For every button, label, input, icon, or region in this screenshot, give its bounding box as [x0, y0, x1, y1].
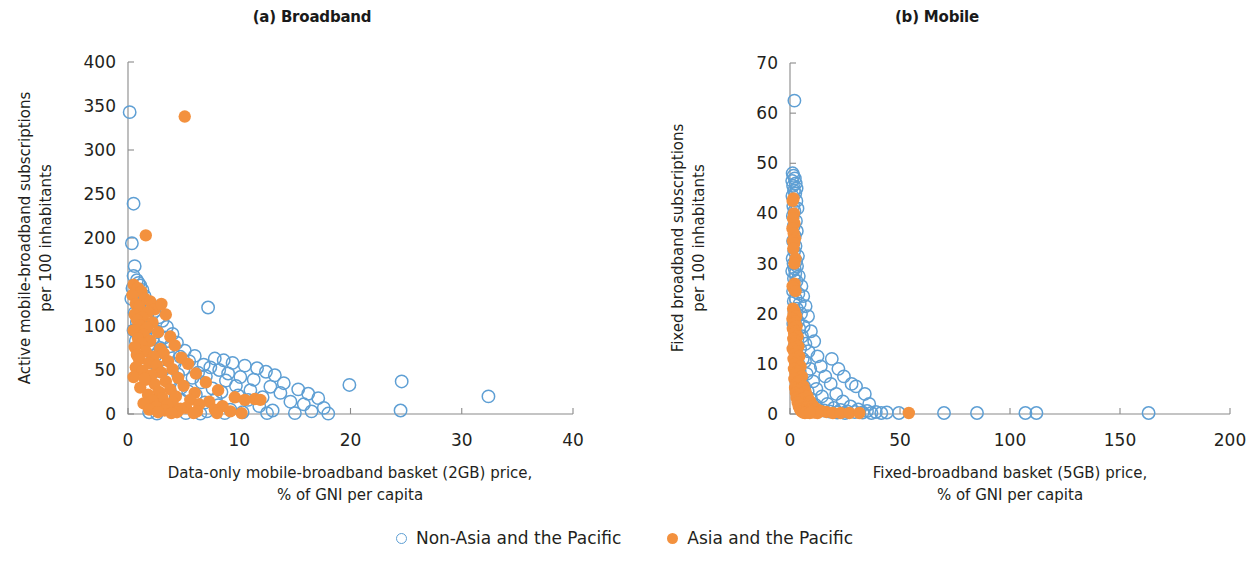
legend-item-non-asia-pacific: Non-Asia and the Pacific: [396, 528, 621, 548]
data-point: [182, 358, 194, 370]
y-tick-label: 200: [84, 228, 116, 248]
data-point: [202, 301, 214, 313]
y-axis-title-line2: per 100 inhabitants: [37, 164, 55, 312]
data-point: [863, 398, 875, 410]
x-axis-title-line2: % of GNI per capita: [937, 486, 1083, 504]
data-point: [788, 257, 800, 269]
y-tick-label: 50: [94, 360, 116, 380]
y-tick-label: 150: [84, 272, 116, 292]
x-tick-label: 20: [340, 430, 362, 450]
data-point: [826, 353, 838, 365]
x-tick-label: 0: [785, 430, 796, 450]
y-tick-label: 20: [756, 304, 778, 324]
data-point: [786, 195, 798, 207]
data-point: [140, 229, 152, 241]
data-point: [1142, 407, 1154, 419]
y-tick-label: 250: [84, 184, 116, 204]
data-point: [305, 405, 317, 417]
y-tick-label: 60: [756, 103, 778, 123]
x-tick-label: 30: [451, 430, 473, 450]
y-axis-title-line1: Fixed broadband subscriptions: [669, 123, 687, 352]
data-point: [235, 407, 247, 419]
data-point: [169, 339, 181, 351]
y-tick-label: 50: [756, 153, 778, 173]
x-tick-label: 100: [994, 430, 1026, 450]
x-axis-title-line1: Fixed-broadband basket (5GB) price,: [873, 464, 1148, 482]
data-point: [123, 106, 135, 118]
scatter-plot-mobile: 010203040506070050100150200Fixed broadba…: [625, 0, 1249, 520]
series-non-asia-pacific: [786, 94, 1155, 419]
data-point: [127, 197, 139, 209]
open-circle-icon: [396, 533, 407, 544]
data-point: [165, 407, 177, 419]
data-point: [177, 380, 189, 392]
y-tick-label: 0: [105, 404, 116, 424]
legend-item-asia-pacific: Asia and the Pacific: [667, 528, 853, 548]
data-point: [127, 371, 139, 383]
data-point: [217, 354, 229, 366]
data-point: [200, 376, 212, 388]
y-tick-label: 400: [84, 52, 116, 72]
data-point: [343, 379, 355, 391]
data-point: [394, 404, 406, 416]
data-point: [254, 394, 266, 406]
data-point: [152, 406, 164, 418]
data-point: [289, 407, 301, 419]
x-axis-title-line1: Data-only mobile-broadband basket (2GB) …: [168, 464, 533, 482]
data-point: [284, 395, 296, 407]
data-point: [804, 407, 816, 419]
figure-legend: Non-Asia and the Pacific Asia and the Pa…: [0, 528, 1249, 548]
scatter-plot-broadband: 050100150200250300350400010203040Active …: [0, 0, 624, 520]
legend-label-non-asia-pacific: Non-Asia and the Pacific: [416, 528, 621, 548]
data-point: [903, 407, 915, 419]
y-tick-label: 300: [84, 140, 116, 160]
data-point: [845, 378, 857, 390]
data-point: [830, 388, 842, 400]
y-tick-label: 10: [756, 354, 778, 374]
y-axis-title-line1: Active mobile-broadband subscriptions: [16, 92, 34, 385]
x-tick-label: 0: [123, 430, 134, 450]
y-tick-label: 0: [767, 404, 778, 424]
data-point: [212, 384, 224, 396]
data-point: [187, 407, 199, 419]
x-tick-label: 200: [1214, 430, 1246, 450]
x-axis-title-line2: % of GNI per capita: [277, 486, 423, 504]
data-point: [138, 373, 150, 385]
x-tick-label: 150: [1104, 430, 1136, 450]
figure-root: (a) Broadband 05010015020025030035040001…: [0, 0, 1249, 576]
chart-panel-mobile: (b) Mobile 010203040506070050100150200Fi…: [625, 0, 1249, 520]
data-point: [789, 285, 801, 297]
data-point: [190, 367, 202, 379]
data-point: [853, 407, 865, 419]
data-point: [155, 298, 167, 310]
panel-b-plot: 010203040506070050100150200Fixed broadba…: [625, 0, 1249, 520]
filled-circle-icon: [667, 533, 678, 544]
data-point: [971, 407, 983, 419]
data-point: [938, 407, 950, 419]
data-point: [211, 407, 223, 419]
data-point: [179, 110, 191, 122]
legend-label-asia-pacific: Asia and the Pacific: [687, 528, 853, 548]
data-point: [239, 359, 251, 371]
y-tick-label: 350: [84, 96, 116, 116]
data-point: [224, 405, 236, 417]
y-tick-label: 70: [756, 53, 778, 73]
data-point: [160, 308, 172, 320]
y-axis-title-line2: per 100 inhabitants: [690, 164, 708, 312]
data-point: [482, 390, 494, 402]
y-tick-label: 40: [756, 203, 778, 223]
y-tick-label: 100: [84, 316, 116, 336]
data-point: [395, 375, 407, 387]
x-tick-label: 50: [889, 430, 911, 450]
data-point: [239, 394, 251, 406]
x-tick-label: 40: [562, 430, 584, 450]
chart-panel-broadband: (a) Broadband 05010015020025030035040001…: [0, 0, 624, 520]
panel-a-plot: 050100150200250300350400010203040Active …: [0, 0, 624, 520]
x-tick-label: 10: [228, 430, 250, 450]
y-tick-label: 30: [756, 254, 778, 274]
